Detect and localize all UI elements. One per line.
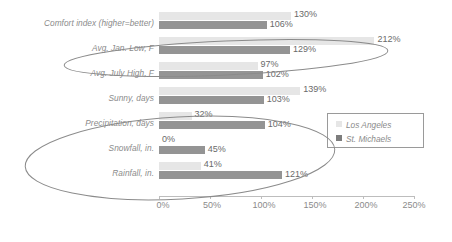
x-axis-tick-250 [414, 196, 415, 199]
bar-los-angeles-avg-july-high[interactable] [159, 62, 258, 70]
legend-label-st-michaels: St. Michaels [346, 134, 391, 144]
category-label-sunny-days: Sunny, days [0, 93, 154, 103]
legend-item-los-angeles[interactable]: Los Angeles [336, 119, 391, 130]
bar-group-comfort-index: 130% 106% [159, 12, 413, 31]
bar-st-michaels-snowfall[interactable] [159, 146, 205, 154]
value-label-los-angeles-snowfall: 0% [162, 135, 175, 144]
bar-group-avg-jan-low: 212% 129% [159, 37, 413, 56]
x-axis-label-0: 0% [156, 200, 169, 210]
x-axis-label-250: 250% [402, 200, 425, 210]
legend: Los Angeles St. Michaels [327, 113, 424, 148]
category-axis-labels: Comfort index (higher=better) Avg. Jan. … [0, 0, 154, 242]
category-label-precipitation-days: Precipitation, days [0, 118, 154, 128]
value-label-st-michaels-comfort-index: 106% [270, 20, 293, 29]
climate-comparison-bar-chart: Comfort index (higher=better) Avg. Jan. … [0, 0, 452, 242]
x-axis-label-150: 150% [303, 200, 326, 210]
category-label-comfort-index: Comfort index (higher=better) [0, 18, 154, 28]
value-label-st-michaels-sunny-days: 103% [267, 95, 290, 104]
value-label-los-angeles-precipitation-days: 32% [195, 110, 213, 119]
legend-swatch-los-angeles-icon [336, 121, 342, 127]
value-label-los-angeles-avg-july-high: 97% [261, 60, 279, 69]
bar-los-angeles-avg-jan-low[interactable] [159, 37, 374, 45]
x-axis-label-200: 200% [354, 200, 377, 210]
bar-group-sunny-days: 139% 103% [159, 87, 413, 106]
legend-swatch-st-michaels-icon [336, 135, 342, 141]
value-label-st-michaels-snowfall: 45% [208, 145, 226, 154]
x-axis-label-100: 100% [252, 200, 275, 210]
x-axis-tick-100 [261, 196, 262, 199]
bar-los-angeles-rainfall[interactable] [159, 162, 201, 170]
value-label-los-angeles-sunny-days: 139% [303, 85, 326, 94]
bar-st-michaels-avg-july-high[interactable] [159, 71, 263, 79]
legend-item-st-michaels[interactable]: St. Michaels [336, 133, 391, 144]
value-label-st-michaels-avg-july-high: 102% [266, 70, 289, 79]
value-label-st-michaels-rainfall: 121% [285, 170, 308, 179]
bar-st-michaels-avg-jan-low[interactable] [159, 46, 290, 54]
bar-group-rainfall: 41% 121% [159, 162, 413, 181]
value-label-st-michaels-precipitation-days: 104% [268, 120, 291, 129]
x-axis-tick-200 [363, 196, 364, 199]
bar-st-michaels-rainfall[interactable] [159, 171, 282, 179]
category-label-avg-jan-low: Avg. Jan. Low, F [0, 43, 154, 53]
bar-st-michaels-precipitation-days[interactable] [159, 121, 265, 129]
bar-st-michaels-comfort-index[interactable] [159, 21, 267, 29]
value-label-los-angeles-comfort-index: 130% [294, 10, 317, 19]
category-label-snowfall: Snowfall, in. [0, 143, 154, 153]
x-axis-tick-150 [312, 196, 313, 199]
value-label-los-angeles-rainfall: 41% [204, 160, 222, 169]
bar-group-avg-july-high: 97% 102% [159, 62, 413, 81]
x-axis-tick-50 [210, 196, 211, 199]
plot-area: 130% 106% 212% 129% 97% 102% 139% 103% 3… [159, 8, 413, 193]
value-label-st-michaels-avg-jan-low: 129% [293, 45, 316, 54]
bar-los-angeles-precipitation-days[interactable] [159, 112, 192, 120]
x-axis-label-50: 50% [203, 200, 221, 210]
category-label-rainfall: Rainfall, in. [0, 168, 154, 178]
x-axis-tick-0 [159, 196, 160, 199]
bar-st-michaels-sunny-days[interactable] [159, 96, 264, 104]
category-label-avg-july-high: Avg. July High, F [0, 68, 154, 78]
legend-label-los-angeles: Los Angeles [346, 120, 391, 130]
x-axis-line [159, 196, 414, 197]
value-label-los-angeles-avg-jan-low: 212% [377, 35, 400, 44]
